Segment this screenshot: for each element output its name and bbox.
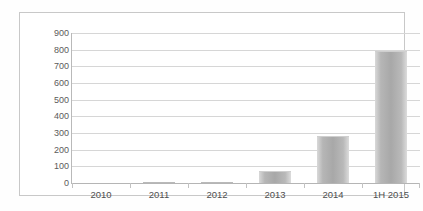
bar-slot — [72, 33, 130, 183]
bar-slot — [246, 33, 304, 183]
x-axis-tick-labels: 201020112012201320141H 2015 — [72, 189, 420, 203]
x-axis-tick-label: 2013 — [246, 189, 304, 201]
x-axis-tick-label: 1H 2015 — [362, 189, 420, 201]
x-axis-tick-label: 2011 — [130, 189, 188, 201]
bar-slot — [304, 33, 362, 183]
y-axis-tick-label: 600 — [39, 79, 69, 88]
y-axis-tick-label: 800 — [39, 46, 69, 55]
x-axis-tick-label: 2010 — [72, 189, 130, 201]
y-axis-tick-label: 300 — [39, 129, 69, 138]
y-axis-tick-label: 500 — [39, 96, 69, 105]
bar[interactable] — [259, 171, 291, 184]
x-axis-tick-mark — [304, 183, 305, 188]
bar-slot — [188, 33, 246, 183]
x-axis-tick-label: 2014 — [304, 189, 362, 201]
bar[interactable] — [143, 182, 175, 183]
bars-group — [72, 33, 420, 183]
bar[interactable] — [375, 51, 407, 183]
x-axis-tick-mark — [130, 183, 131, 188]
y-axis-tick-label: 0 — [39, 179, 69, 188]
bar-chart-figure: 0100200300400500600700800900 20102011201… — [0, 0, 423, 211]
x-axis-tick-marks — [72, 183, 420, 188]
bar-slot — [130, 33, 188, 183]
x-axis-tick-mark — [246, 183, 247, 188]
y-axis-tick-label: 200 — [39, 146, 69, 155]
bar-slot — [362, 33, 420, 183]
x-axis-tick-mark — [362, 183, 363, 188]
bar[interactable] — [317, 136, 349, 183]
x-axis-tick-mark — [419, 183, 420, 188]
y-axis-tick-label: 100 — [39, 162, 69, 171]
x-axis-tick-mark — [188, 183, 189, 188]
y-axis-tick-label: 900 — [39, 29, 69, 38]
y-axis-tick-label: 700 — [39, 62, 69, 71]
chart-frame: 0100200300400500600700800900 20102011201… — [19, 12, 405, 196]
y-axis-tick-label: 400 — [39, 112, 69, 121]
x-axis-tick-mark — [72, 183, 73, 188]
y-axis-tick-labels: 0100200300400500600700800900 — [39, 33, 69, 183]
bar[interactable] — [201, 182, 233, 183]
x-axis-tick-label: 2012 — [188, 189, 246, 201]
